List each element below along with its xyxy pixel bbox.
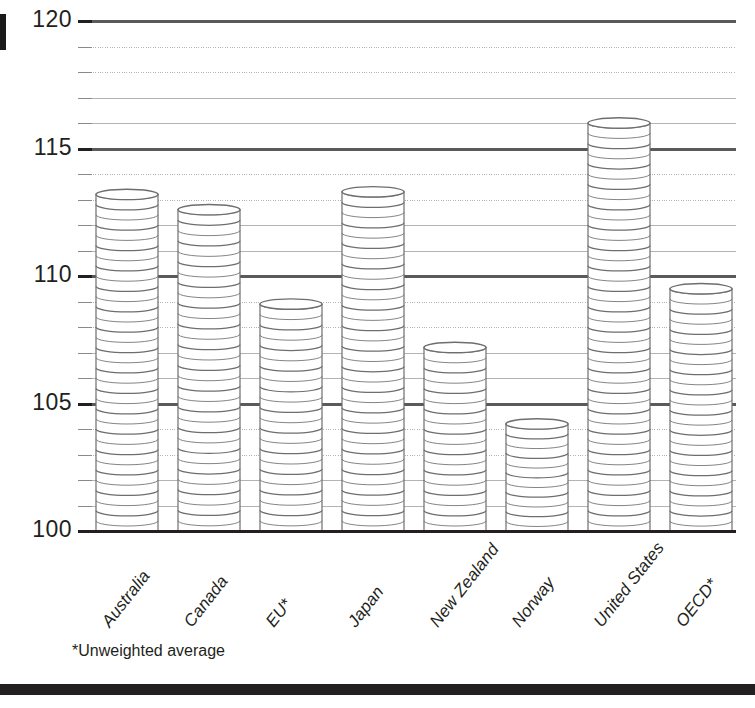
y-tick-label-100: 100 (8, 518, 72, 541)
y-tick-label-115: 115 (8, 136, 72, 159)
bar-canada (178, 205, 240, 532)
bar-body (260, 304, 322, 531)
bar-australia (96, 189, 158, 531)
coin-top-cap (506, 419, 568, 429)
coin-top-cap (342, 187, 404, 197)
coin-stack-bar-chart: 120115110105100 AustraliaCanadaEU*JapanN… (0, 0, 755, 708)
bottom-rule (0, 684, 755, 695)
bar-body (424, 347, 486, 531)
coin-top-cap (178, 205, 240, 215)
coin-top-cap (424, 342, 486, 352)
coin-top-cap (260, 299, 322, 309)
y-tick-label-110: 110 (8, 263, 72, 286)
bars-group (96, 118, 732, 531)
coin-top-cap (588, 118, 650, 128)
bar-norway (506, 419, 568, 531)
bar-new-zealand (424, 342, 486, 531)
bar-oecd (670, 284, 732, 531)
bar-united-states (588, 118, 650, 531)
y-tick-label-120: 120 (8, 8, 72, 31)
footnote-unweighted-average: *Unweighted average (72, 642, 225, 660)
coin-top-cap (670, 284, 732, 294)
coin-top-cap (96, 189, 158, 199)
y-tick-label-105: 105 (8, 391, 72, 414)
bar-japan (342, 187, 404, 531)
bar-eu (260, 299, 322, 531)
bar-body (588, 123, 650, 531)
